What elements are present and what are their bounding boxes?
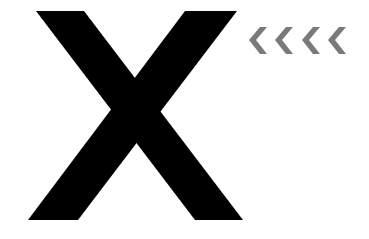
chevron-left-icon — [249, 27, 267, 54]
chevron-left-icon — [302, 27, 320, 54]
chevron-left-icon — [275, 27, 293, 54]
chevrons-left-group — [248, 26, 352, 56]
chevron-left-icon — [328, 27, 346, 54]
